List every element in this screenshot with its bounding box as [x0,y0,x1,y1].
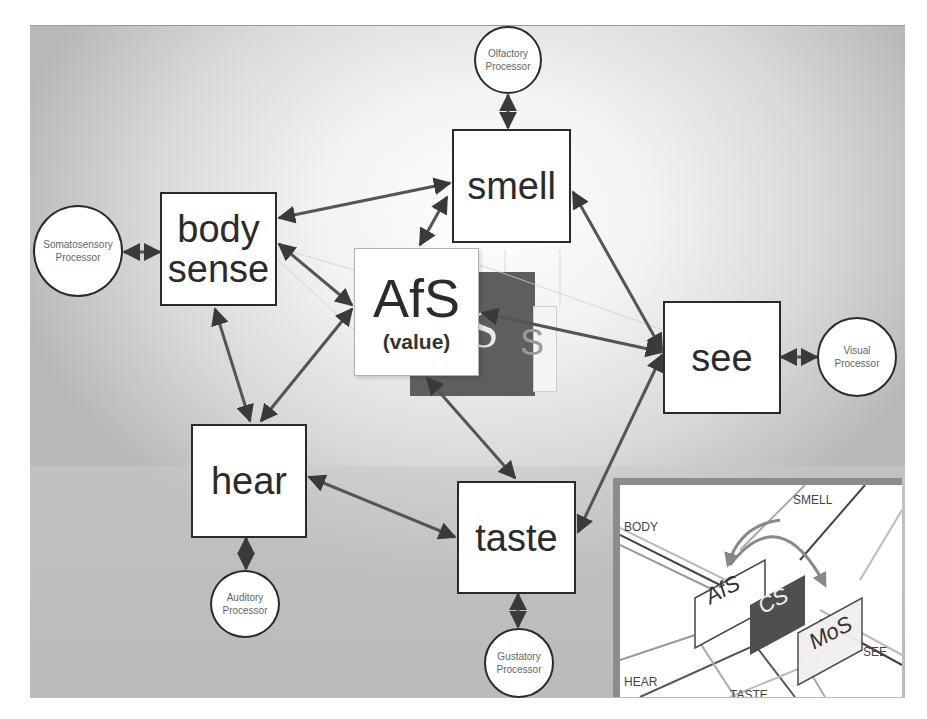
inset-label-hear: HEAR [624,675,657,689]
taste-node: taste [457,481,576,594]
gustatory-label-2: Processor [496,663,541,676]
hear-node: hear [191,424,307,538]
inset-3d-diagram: SMELL BODY SEE HEAR TASTE AfS CS MoS [613,478,902,697]
olfactory-label-1: Olfactory [488,47,528,60]
inset-label-taste: TASTE [730,688,768,697]
body-sense-node: body sense [160,192,277,306]
somatosensory-processor-node: Somatosensory Processor [33,205,123,297]
inset-label-see: SEE [863,645,887,659]
olfactory-label-2: Processor [485,60,530,73]
body-sense-label-1: body [177,209,259,249]
visual-label-2: Processor [834,357,879,370]
somatosensory-label-2: Processor [55,251,100,264]
auditory-label-2: Processor [222,604,267,617]
auditory-label-1: Auditory [227,591,264,604]
gustatory-label-1: Gustatory [497,650,540,663]
auditory-processor-node: Auditory Processor [210,570,280,638]
inset-lines [620,485,902,697]
hear-label: hear [211,461,287,501]
afs-value-node: AfS (value) [354,248,479,376]
afs-sublabel: (value) [383,330,451,354]
see-node: see [663,301,781,414]
body-sense-label-2: sense [168,249,269,289]
inset-canvas: SMELL BODY SEE HEAR TASTE AfS CS MoS [620,485,902,697]
smell-label: smell [467,166,556,206]
smell-node: smell [452,129,571,243]
olfactory-processor-node: Olfactory Processor [474,26,542,94]
visual-label-1: Visual [843,344,870,357]
inset-label-body: BODY [624,520,658,534]
afs-label: AfS [373,270,460,326]
gustatory-processor-node: Gustatory Processor [484,628,554,698]
taste-label: taste [475,518,557,558]
see-label: see [691,338,752,378]
somatosensory-label-1: Somatosensory [43,238,112,251]
inset-label-smell: SMELL [793,493,832,507]
visual-processor-node: Visual Processor [817,317,897,397]
